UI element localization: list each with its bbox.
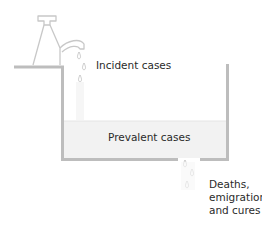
prevalent-cases-label: Prevalent cases <box>108 131 190 144</box>
tap-icon <box>33 16 84 65</box>
outflow-label-line: Deaths, <box>209 178 262 191</box>
incident-cases-label: Incident cases <box>96 59 171 72</box>
water-drops-icon <box>78 52 86 82</box>
outflow-label-line: and cures <box>209 204 262 217</box>
inflow-stream <box>76 82 84 120</box>
outflow-label-line: emigrations <box>209 191 262 204</box>
outflow-label: Deaths, emigrations and cures <box>209 178 262 217</box>
outflow-stream <box>181 162 195 190</box>
